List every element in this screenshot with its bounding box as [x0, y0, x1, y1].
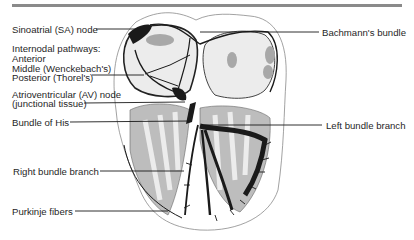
label-purkinje-fibers: Purkinje fibers [12, 206, 73, 217]
label-internodal-posterior: Posterior (Thorel's) [12, 72, 93, 83]
label-bundle-of-his: Bundle of His [12, 117, 69, 128]
left-atrium [203, 31, 275, 98]
label-bachmanns-bundle: Bachmann's bundle [322, 27, 406, 38]
label-left-bundle-branch: Left bundle branch [326, 120, 405, 131]
label-right-bundle-branch: Right bundle branch [13, 166, 99, 177]
label-sa-node: Sinoatrial (SA) node [12, 24, 98, 35]
leader-av-node [84, 102, 185, 103]
label-av-node-sub: (junctional tissue) [12, 98, 87, 109]
